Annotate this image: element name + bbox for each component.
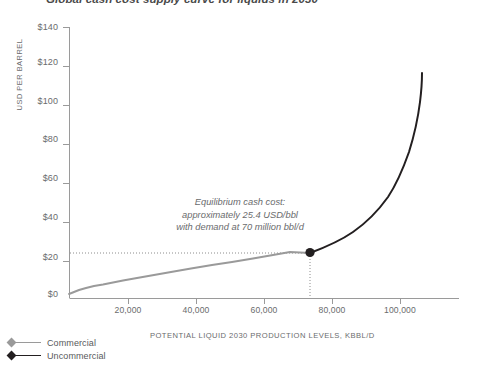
legend-label-commercial: Commercial [47,338,96,348]
annotation-line-1: Equilibrium cash cost: [140,196,340,209]
series-line-commercial [69,252,310,294]
legend-item-uncommercial[interactable]: Uncommercial [8,349,106,362]
annotation-line-3: with demand at 70 million bbl/d [140,221,340,234]
chart-page: Global cash cost supply curve for liquid… [0,0,477,371]
equilibrium-point-marker [305,248,314,257]
legend-swatch-commercial [8,337,42,349]
legend-line-icon [14,355,41,356]
diamond-marker-icon [7,338,17,348]
diamond-marker-icon [7,351,17,361]
legend-item-commercial[interactable]: Commercial [8,336,106,349]
plot-area [0,0,477,371]
equilibrium-annotation: Equilibrium cash cost: approximately 25.… [140,196,340,234]
legend-label-uncommercial: Uncommercial [47,351,106,361]
chart-legend: Commercial Uncommercial [8,336,106,362]
legend-swatch-uncommercial [8,350,42,362]
annotation-line-2: approximately 25.4 USD/bbl [140,209,340,222]
legend-line-icon [14,342,41,343]
